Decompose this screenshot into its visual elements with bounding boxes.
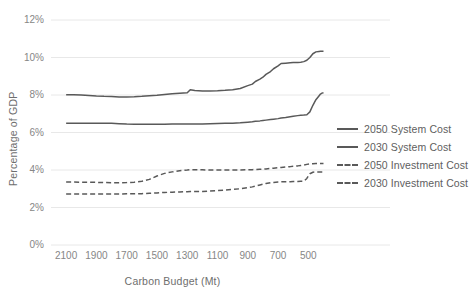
chart-container: 0%2%4%6%8%10%12% 21001900170015001300110… xyxy=(0,0,471,298)
y-axis-tick-label: 0% xyxy=(10,239,44,250)
legend-item-label: 2050 Investment Cost xyxy=(364,159,468,171)
y-axis-title: Percentage of GDP xyxy=(7,172,19,186)
legend-line-sample-icon xyxy=(337,178,358,188)
legend-line-sample-icon xyxy=(337,160,358,170)
y-axis-tick-label: 2% xyxy=(10,202,44,213)
legend-item[interactable]: 2030 Investment Cost xyxy=(337,175,468,191)
legend-item[interactable]: 2050 Investment Cost xyxy=(337,157,468,173)
series-line xyxy=(66,51,323,97)
legend-item[interactable]: 2050 System Cost xyxy=(337,121,451,137)
x-axis-tick-label: 500 xyxy=(288,250,328,261)
legend-item-label: 2030 Investment Cost xyxy=(364,177,468,189)
legend-line-sample-icon xyxy=(337,142,358,152)
legend-item[interactable]: 2030 System Cost xyxy=(337,139,451,155)
series-line xyxy=(66,172,323,194)
y-axis-tick-label: 12% xyxy=(10,14,44,25)
legend-item-label: 2030 System Cost xyxy=(364,141,451,153)
y-axis-tick-label: 10% xyxy=(10,52,44,63)
series-line xyxy=(66,93,323,125)
series-line xyxy=(66,163,323,182)
series-lines xyxy=(66,51,323,194)
x-axis-title: Carbon Budget (Mt) xyxy=(0,275,345,287)
legend-line-sample-icon xyxy=(337,124,358,134)
legend-item-label: 2050 System Cost xyxy=(364,123,451,135)
